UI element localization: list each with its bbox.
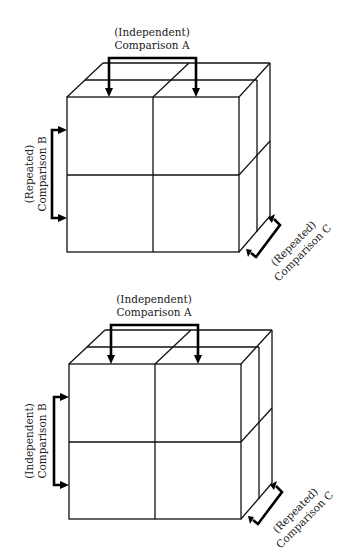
- arrow-down-icon: [107, 355, 115, 364]
- comparison-b-type-label: (Independent): [23, 403, 35, 479]
- cube-2x2x2: [69, 330, 272, 519]
- comparison-b-name-label: Comparison B: [36, 136, 48, 211]
- arrow-right-icon: [58, 126, 67, 134]
- design-diagram-bottom: (Independent) Comparison A (Independent)…: [23, 293, 335, 550]
- design-diagram-top: (Independent) Comparison A (Repeated) Co…: [23, 26, 333, 283]
- factorial-design-figure: (Independent) Comparison A (Repeated) Co…: [0, 0, 339, 558]
- arrow-down-icon: [194, 355, 202, 364]
- comparison-b-name-label: Comparison B: [36, 403, 48, 478]
- arrow-icon: [270, 481, 277, 490]
- comparison-a-name-label: Comparison A: [116, 306, 191, 318]
- comparison-a-name-label: Comparison A: [114, 39, 189, 51]
- cube-2x2x2: [67, 63, 270, 252]
- arrow-icon: [268, 214, 275, 223]
- comparison-a-type-label: (Independent): [114, 26, 190, 38]
- side-horizontal-divider: [241, 408, 272, 442]
- comparison-a-type-label: (Independent): [116, 293, 192, 305]
- comparison-b-bracket: [54, 393, 69, 489]
- arrow-down-icon: [192, 88, 200, 97]
- comparison-a-bracket: [107, 325, 202, 364]
- comparison-b-bracket: [52, 126, 67, 222]
- arrow-down-icon: [105, 88, 113, 97]
- arrow-right-icon: [58, 214, 67, 222]
- comparison-b-type-label: (Repeated): [23, 145, 35, 204]
- side-horizontal-divider: [239, 141, 270, 175]
- comparison-a-bracket: [105, 58, 200, 97]
- comparison-c-bracket: [248, 481, 282, 524]
- arrow-right-icon: [60, 481, 69, 489]
- arrow-right-icon: [60, 393, 69, 401]
- comparison-c-bracket: [246, 214, 280, 257]
